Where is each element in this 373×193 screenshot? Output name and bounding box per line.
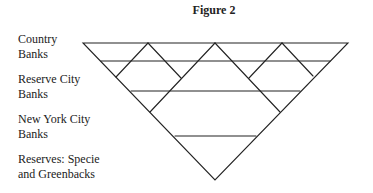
peak-left-a xyxy=(116,43,148,77)
peak-center-a xyxy=(150,43,215,112)
peak-center-b xyxy=(215,43,280,112)
peak-right-b xyxy=(282,43,313,76)
pyramid-diagram xyxy=(0,0,373,193)
outer-triangle xyxy=(83,43,348,180)
